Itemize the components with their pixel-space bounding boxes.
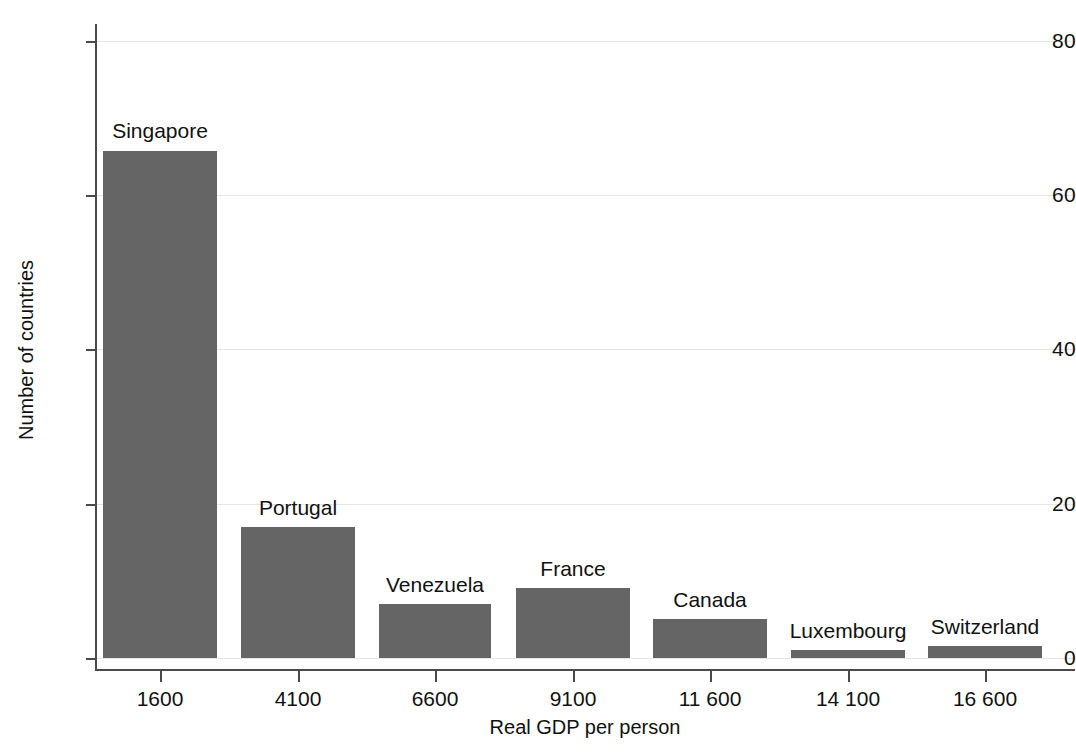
bar-label-france: France — [453, 558, 693, 580]
x-tick-label-9100: 9100 — [493, 688, 653, 710]
y-tick-label-40: 40 — [1002, 338, 1076, 359]
gridline-60 — [97, 195, 1075, 196]
x-tick-label-6600: 6600 — [355, 688, 515, 710]
bar-venezuela — [379, 604, 491, 658]
x-tick-label-4100: 4100 — [218, 688, 378, 710]
y-tick-20 — [86, 504, 96, 506]
gridline-0 — [97, 658, 1075, 659]
x-tick-14100 — [848, 671, 850, 682]
y-tick-label-60: 60 — [1002, 184, 1076, 205]
y-tick-label-20: 20 — [1002, 493, 1076, 514]
x-axis-line — [95, 669, 1075, 671]
x-tick-label-16600: 16 600 — [905, 688, 1065, 710]
x-tick-label-1600: 1600 — [80, 688, 240, 710]
x-tick-9100 — [573, 671, 575, 682]
y-axis-title: Number of countries — [16, 200, 36, 500]
gridline-40 — [97, 349, 1075, 350]
x-tick-label-14100: 14 100 — [768, 688, 928, 710]
histogram-chart: Singapore Portugal Venezuela France Cana… — [0, 0, 1076, 752]
bar-label-switzerland: Switzerland — [865, 616, 1076, 638]
bar-label-canada: Canada — [590, 589, 830, 611]
x-tick-11600 — [710, 671, 712, 682]
x-tick-16600 — [985, 671, 987, 682]
x-axis-title: Real GDP per person — [95, 717, 1075, 737]
y-tick-40 — [86, 349, 96, 351]
y-tick-80 — [86, 41, 96, 43]
y-tick-label-0: 0 — [1002, 647, 1076, 668]
bar-singapore — [103, 151, 217, 658]
x-tick-label-11600: 11 600 — [630, 688, 790, 710]
gridline-80 — [97, 41, 1075, 42]
bar-label-singapore: Singapore — [40, 120, 280, 142]
y-tick-0 — [86, 658, 96, 660]
x-tick-4100 — [298, 671, 300, 682]
bar-luxembourg — [791, 650, 905, 658]
y-tick-label-80: 80 — [1002, 30, 1076, 51]
x-tick-1600 — [160, 671, 162, 682]
bar-label-portugal: Portugal — [178, 497, 418, 519]
x-tick-6600 — [435, 671, 437, 682]
y-tick-60 — [86, 195, 96, 197]
y-axis-line — [95, 24, 97, 670]
